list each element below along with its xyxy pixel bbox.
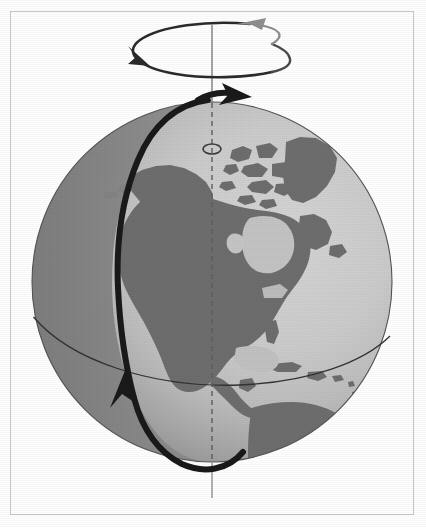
- earth-precession-diagram: [0, 0, 426, 527]
- precession-circle: [128, 18, 290, 77]
- earth-globe: [24, 94, 424, 486]
- precession-arrowhead-left: [128, 46, 150, 66]
- figure-root: Shaded globe centred on North America, v…: [0, 0, 426, 527]
- precession-arrowhead-right: [237, 18, 266, 30]
